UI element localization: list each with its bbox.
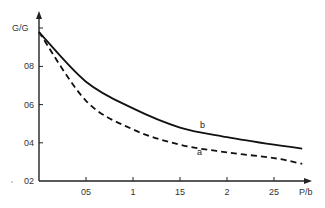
y-axis-arrow-icon — [36, 11, 42, 19]
curve-a — [39, 32, 302, 164]
x-axis-label: P/b — [299, 187, 313, 197]
svg-text:25: 25 — [269, 187, 279, 197]
svg-text:02: 02 — [24, 176, 34, 186]
svg-text:1: 1 — [130, 187, 135, 197]
svg-text:04: 04 — [24, 138, 34, 148]
x-axis-arrow-icon — [304, 178, 312, 184]
line-chart: 02040608 05115225 G/G P/b b a — [0, 0, 325, 208]
svg-text:05: 05 — [81, 187, 91, 197]
x-ticks: 05115225 — [81, 177, 279, 197]
y-axis-label: G/G — [12, 23, 29, 33]
y-ticks: 02040608 — [24, 61, 43, 186]
svg-text:2: 2 — [224, 187, 229, 197]
svg-text:06: 06 — [24, 100, 34, 110]
svg-text:08: 08 — [24, 61, 34, 71]
curve-label-b: b — [200, 120, 205, 130]
svg-text:15: 15 — [175, 187, 185, 197]
stray-dot — [11, 181, 13, 183]
curve-label-a: a — [197, 147, 202, 157]
curve-b — [39, 32, 302, 149]
